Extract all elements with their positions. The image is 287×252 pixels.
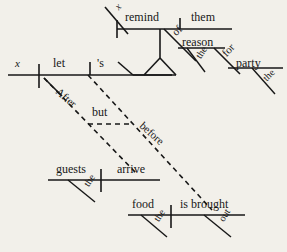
main-object-slant [118,62,133,75]
label-clause2-subject-food: food [132,198,154,210]
label-clause1-subject-guests: guests [56,163,86,175]
pedestal-left-leg [144,58,160,75]
label-main-object-s: 's [97,57,104,69]
label-embedded-verb-remind: remind [125,11,159,23]
label-main-verb-let: let [53,57,65,69]
label-embedded-object-them: them [191,11,215,23]
sentence-diagram-page: x let 's x remind them of reason the for… [0,0,287,252]
conj-before-connector [88,75,212,210]
label-clause1-verb-arrive: arrive [117,163,145,175]
label-main-subject-x: x [15,58,20,69]
label-prep-object-party: party [236,57,261,69]
pedestal-right-leg [160,58,176,75]
label-conjunction-but: but [92,106,107,118]
